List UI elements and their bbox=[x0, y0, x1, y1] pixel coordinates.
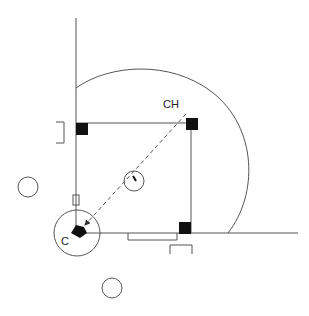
first-base bbox=[179, 222, 191, 234]
second-base bbox=[186, 118, 198, 130]
third-base bbox=[76, 123, 88, 135]
dugout-bench bbox=[128, 233, 177, 240]
throw-dashed-arrow bbox=[85, 114, 186, 225]
outfield-arc bbox=[76, 69, 249, 233]
on-deck-circle-bottom bbox=[102, 278, 122, 298]
label-target: CH bbox=[163, 98, 179, 110]
pitcher-mound bbox=[124, 171, 144, 191]
baseball-field-diagram: CH C bbox=[0, 0, 309, 316]
pitcher-rubber bbox=[133, 176, 136, 181]
on-deck-circle-left bbox=[18, 177, 38, 197]
first-base-coach-box bbox=[170, 245, 192, 254]
home-plate bbox=[71, 225, 87, 238]
third-base-coach-box bbox=[56, 122, 64, 143]
label-catcher: C bbox=[61, 235, 69, 247]
